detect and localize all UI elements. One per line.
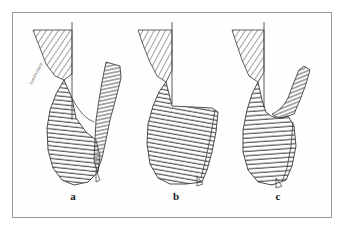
panel-c-hooked-process: [272, 66, 310, 118]
panel-a-separated-flap: [94, 62, 121, 172]
panel-b-main-body: [147, 82, 218, 184]
panel-label-a: a: [65, 190, 81, 202]
panel-b-drawing: [138, 22, 218, 186]
panel-a-drawing: [33, 22, 121, 185]
panel-label-c: c: [270, 190, 286, 202]
figure-root: handwritten a b c: [0, 0, 344, 230]
panel-c-upper-shoulder: [232, 30, 264, 82]
panel-b-upper-shoulder: [138, 30, 172, 82]
panel-c-drawing: [232, 22, 310, 188]
panel-a-main-body: [47, 80, 100, 185]
panel-label-b: b: [168, 190, 184, 202]
